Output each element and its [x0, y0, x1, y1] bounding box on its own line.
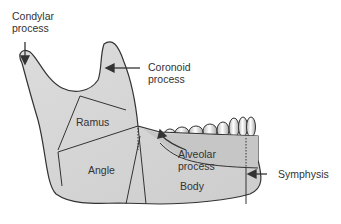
label-ramus: Ramus [76, 116, 109, 128]
label-angle: Angle [88, 164, 115, 176]
label-coronoid-process: Coronoid process [148, 61, 191, 85]
label-alveolar-process: Alveolar process [178, 148, 216, 172]
label-symphysis: Symphysis [278, 168, 329, 180]
label-condylar-process: Condylar process [12, 10, 54, 34]
label-body: Body [180, 180, 204, 192]
